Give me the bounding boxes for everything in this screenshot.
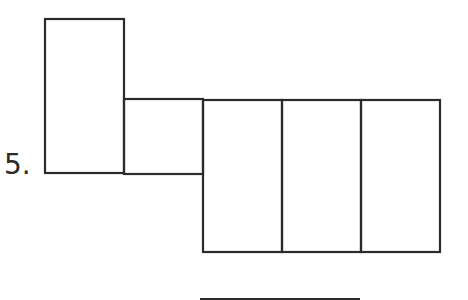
face-rectangle-c <box>361 100 440 252</box>
tall-rectangle <box>45 19 124 173</box>
small-square <box>124 99 203 174</box>
net-diagram <box>0 0 468 300</box>
face-rectangle-a <box>203 100 282 252</box>
face-rectangle-b <box>282 100 361 252</box>
